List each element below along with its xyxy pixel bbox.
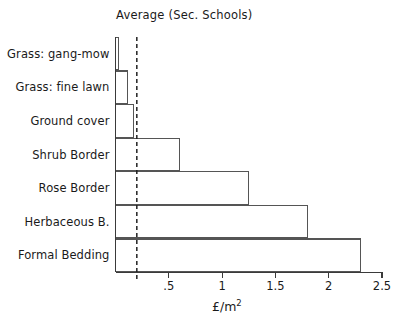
bar [116, 172, 249, 205]
x-axis-tick-label: 1 [218, 279, 225, 293]
bar [116, 138, 180, 171]
bar [116, 205, 308, 238]
chart-title: Average (Sec. Schools) [116, 8, 252, 22]
category-axis-labels: Grass: gang-mowGrass: fine lawnGround co… [7, 47, 110, 262]
category-label: Herbaceous B. [24, 215, 109, 229]
category-label: Ground cover [30, 114, 109, 128]
x-axis-title-superscript: 2 [236, 298, 241, 308]
x-axis-tick-label: 1.5 [266, 279, 284, 293]
bar [116, 105, 134, 138]
category-label: Grass: gang-mow [7, 47, 109, 61]
bar-chart: Average (Sec. Schools) Grass: gang-mowGr… [0, 0, 410, 332]
x-axis-tick-label: 2 [325, 279, 332, 293]
bar [116, 71, 128, 104]
x-axis-title: £/m2 [212, 298, 242, 314]
x-axis-title-main: £/m [212, 299, 236, 314]
x-axis-tick-labels: .511.522.5 [163, 279, 391, 293]
bar [116, 239, 361, 272]
category-label: Grass: fine lawn [16, 80, 110, 94]
category-label: Formal Bedding [18, 248, 110, 262]
category-label: Shrub Border [32, 148, 109, 162]
category-label: Rose Border [39, 181, 110, 195]
chart-canvas: Average (Sec. Schools) Grass: gang-mowGr… [0, 0, 410, 332]
x-axis-tick-label: .5 [163, 279, 174, 293]
x-axis-tick-label: 2.5 [373, 279, 391, 293]
bars-group [116, 38, 361, 272]
